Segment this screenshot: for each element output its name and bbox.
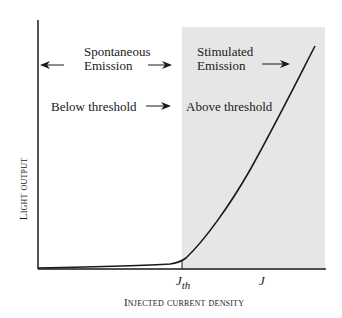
right-arrow-icon — [148, 61, 172, 69]
jth-tick-label: Jth — [176, 274, 190, 292]
below-threshold-label: Below threshold — [51, 100, 137, 114]
stimulated-label-1: Stimulated — [197, 45, 253, 59]
j-tick-label: J — [259, 274, 265, 288]
stimulated-label-2: Emission — [197, 59, 245, 73]
x-axis-title: Injected current density — [124, 295, 244, 309]
y-axis-title: Light output — [16, 152, 30, 226]
spontaneous-label-1: Spontaneous — [84, 45, 150, 59]
right-arrow-icon — [146, 102, 171, 110]
diagram-canvas — [0, 0, 342, 318]
left-arrow-icon — [40, 61, 64, 69]
above-threshold-label: Above threshold — [186, 100, 272, 114]
spontaneous-label-2: Emission — [84, 59, 132, 73]
